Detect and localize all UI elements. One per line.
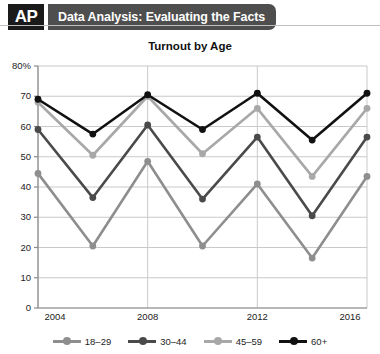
data-point	[364, 105, 371, 112]
legend-swatch-icon	[279, 337, 307, 346]
chart-legend: 18–2930–4445–5960+	[0, 332, 380, 350]
data-point	[364, 134, 371, 141]
data-point	[35, 170, 42, 177]
header-divider	[0, 25, 380, 26]
x-tick-label: 2008	[125, 311, 171, 322]
data-point	[309, 137, 316, 144]
data-point	[199, 243, 206, 250]
legend-label: 60+	[311, 336, 327, 347]
chart-title: Turnout by Age	[0, 40, 380, 52]
legend-item-45–59[interactable]: 45–59	[204, 336, 262, 347]
y-tick-label: 20	[0, 242, 31, 253]
legend-label: 30–44	[160, 336, 186, 347]
x-tick-label: 2016	[327, 311, 373, 322]
y-tick-label: 10	[0, 272, 31, 283]
header-bar: AP Data Analysis: Evaluating the Facts	[0, 4, 380, 30]
series-line-60+	[38, 93, 367, 140]
legend-label: 45–59	[236, 336, 262, 347]
y-tick-label: 0	[0, 302, 31, 313]
x-tick-label: 2012	[234, 311, 280, 322]
y-tick-label: 60	[0, 121, 31, 132]
data-point	[199, 150, 206, 157]
data-point	[89, 243, 96, 250]
plot-area	[0, 58, 380, 316]
data-point	[89, 152, 96, 159]
data-point	[309, 173, 316, 180]
data-point	[89, 131, 96, 138]
y-tick-label: 80%	[0, 60, 31, 71]
y-tick-label: 40	[0, 181, 31, 192]
data-point	[309, 212, 316, 219]
legend-item-60+[interactable]: 60+	[279, 336, 327, 347]
data-point	[199, 196, 206, 203]
legend-swatch-icon	[204, 337, 232, 346]
data-point	[89, 194, 96, 201]
legend-swatch-icon	[128, 337, 156, 346]
data-point	[35, 96, 42, 103]
line-chart	[0, 58, 380, 316]
data-point	[199, 126, 206, 133]
chart-page: AP Data Analysis: Evaluating the Facts T…	[0, 0, 380, 354]
data-point	[144, 158, 151, 165]
header-title: Data Analysis: Evaluating the Facts	[48, 10, 265, 24]
y-tick-label: 30	[0, 211, 31, 222]
data-point	[309, 255, 316, 262]
header-title-bar: Data Analysis: Evaluating the Facts	[48, 4, 276, 30]
legend-item-30–44[interactable]: 30–44	[128, 336, 186, 347]
data-point	[144, 122, 151, 129]
legend-item-18–29[interactable]: 18–29	[53, 336, 111, 347]
data-point	[254, 134, 261, 141]
data-point	[35, 126, 42, 133]
y-tick-label: 50	[0, 151, 31, 162]
legend-label: 18–29	[85, 336, 111, 347]
data-point	[254, 105, 261, 112]
legend-swatch-icon	[53, 337, 81, 346]
data-point	[254, 181, 261, 188]
data-point	[364, 173, 371, 180]
ap-logo: AP	[8, 4, 44, 30]
data-point	[144, 91, 151, 98]
data-point	[254, 90, 261, 97]
y-tick-label: 70	[0, 90, 31, 101]
x-tick-label: 2004	[32, 311, 78, 322]
data-point	[364, 90, 371, 97]
